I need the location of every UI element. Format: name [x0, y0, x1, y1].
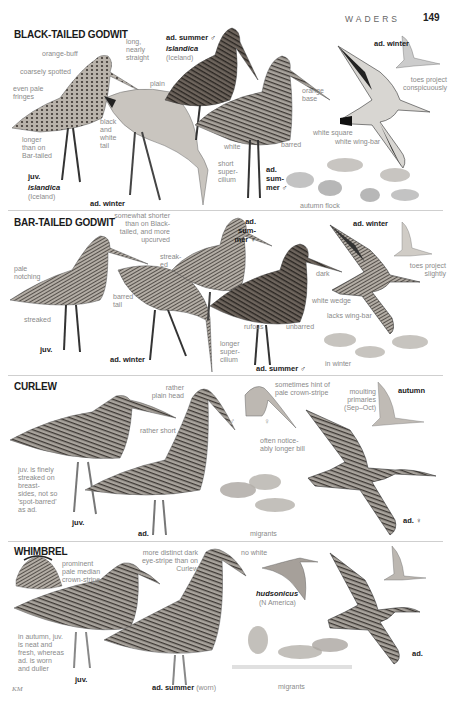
label-migrants: migrants	[278, 683, 305, 691]
label-juv-neat-note: in autumn, juv. is neat and fresh, where…	[18, 633, 64, 673]
age-ad: ad.	[412, 649, 423, 658]
age-juv: juv.	[75, 675, 87, 684]
artist-credit: KM	[12, 685, 23, 693]
whimbrel-migrants-illustration	[0, 0, 457, 726]
label-no-white: no white	[241, 549, 267, 557]
label-more-distinct-eye-stripe: more distinct dark eye-stripe than on Cu…	[138, 549, 198, 573]
age-ad-summer-label: ad. summer	[152, 683, 194, 692]
subspecies-hudsonicus: hudsonicus	[256, 589, 298, 598]
region-n-america: (N America)	[259, 599, 296, 606]
label-prominent-crown-stripe: prominent pale median crown-stripe	[62, 560, 106, 584]
age-ad-summer: ad. summer (worn)	[152, 683, 216, 692]
age-worn: (worn)	[196, 684, 216, 691]
